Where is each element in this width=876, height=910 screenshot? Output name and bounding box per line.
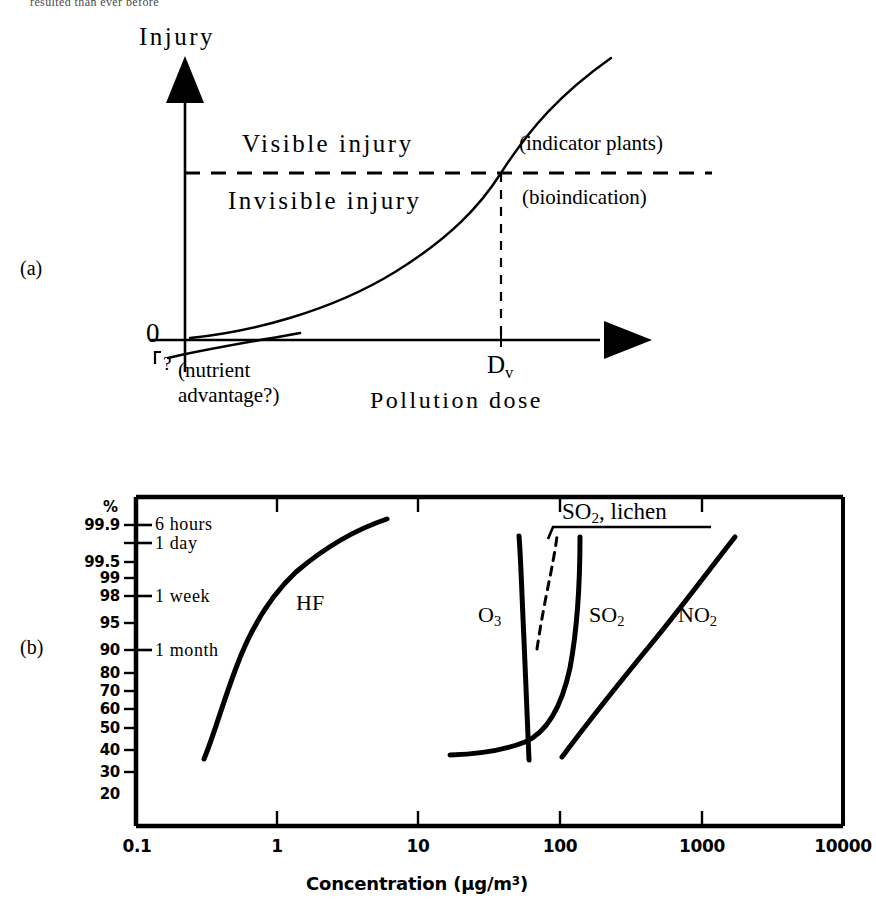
panel-b-ytick-99: 99 xyxy=(58,571,120,586)
panel-b-ytick-90: 90 xyxy=(58,643,120,658)
figure-container: resulted than ever before (a) Injury Vis… xyxy=(0,0,876,910)
callout-base: SO xyxy=(562,499,591,524)
callout-subscript: 2 xyxy=(591,509,599,526)
panel-b-ytick-95: 95 xyxy=(58,616,120,631)
panel-b-callout-leader xyxy=(548,527,711,539)
panel-b-curve-so2-lichen xyxy=(537,536,557,649)
panel-b-ytick-50: 50 xyxy=(58,721,120,736)
no2-subscript: 2 xyxy=(710,613,717,629)
xaxis-title-exponent: 3 xyxy=(512,874,520,888)
panel-b-curve-label-no2: NO2 xyxy=(678,604,717,629)
panel-b-time-label-1-week: 1 week xyxy=(155,587,210,605)
panel-b-curve-label-hf: HF xyxy=(296,592,324,614)
o3-base: O xyxy=(478,602,494,627)
panel-b-ytick-30: 30 xyxy=(58,765,120,780)
so2-subscript: 2 xyxy=(617,613,624,629)
panel-b-ytick-60: 60 xyxy=(58,702,120,717)
xaxis-title-tail: ) xyxy=(520,873,528,894)
no2-base: NO xyxy=(678,602,710,627)
panel-b-ytick-99-5: 99.5 xyxy=(58,555,120,570)
panel-b-time-ticks xyxy=(136,525,152,650)
panel-b-graphics xyxy=(0,0,876,910)
callout-tail: , lichen xyxy=(599,499,667,524)
panel-b-ytick-20: 20 xyxy=(58,787,120,802)
xaxis-title-main: Concentration (µg/m xyxy=(306,873,512,894)
panel-b-ytick-80: 80 xyxy=(58,666,120,681)
o3-subscript: 3 xyxy=(494,613,501,629)
panel-b-curve-hf xyxy=(204,519,387,759)
panel-b-callout-so2-lichen: SO2, lichen xyxy=(562,500,667,525)
panel-b-time-label-1-month: 1 month xyxy=(155,641,219,659)
panel-b-xtick-1000: 1000 xyxy=(671,838,733,855)
panel-b-time-label-1-day: 1 day xyxy=(155,534,198,552)
panel-b-ytick-98: 98 xyxy=(58,589,120,604)
panel-b-curve-so2 xyxy=(450,537,580,755)
panel-b-time-label-6-hours: 6 hours xyxy=(155,515,213,533)
panel-b-curve-no2 xyxy=(562,537,735,757)
so2-base: SO xyxy=(589,602,617,627)
panel-b-curve-o3 xyxy=(519,536,529,760)
panel-b-curve-label-o3: O3 xyxy=(478,604,501,629)
panel-b-xtick-10000: 10000 xyxy=(812,838,874,855)
panel-b-ytick-40: 40 xyxy=(58,743,120,758)
panel-b-xtick-1: 1 xyxy=(246,838,308,855)
panel-b-percent-symbol: % xyxy=(103,500,118,515)
panel-b-x-axis-title: Concentration (µg/m3) xyxy=(306,875,528,893)
panel-b-xtick-100: 100 xyxy=(529,838,591,855)
panel-b-curve-label-so2: SO2 xyxy=(589,604,624,629)
panel-b-ytick-99-9: 99.9 xyxy=(58,518,120,533)
panel-b-ytick-70: 70 xyxy=(58,684,120,699)
panel-b-xtick-10: 10 xyxy=(387,838,449,855)
panel-b-xtick-0-1: 0.1 xyxy=(106,838,168,855)
